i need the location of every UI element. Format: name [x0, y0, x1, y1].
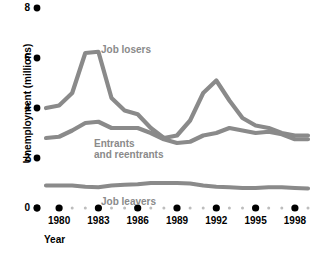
- x-tick-label: 1989: [157, 215, 197, 226]
- x-tick-dot-minor: [71, 207, 74, 210]
- series-lines: [46, 52, 308, 189]
- x-tick-dot-minor: [267, 207, 270, 210]
- x-tick-label: 1998: [275, 215, 315, 226]
- series-line: [46, 183, 308, 189]
- origin-dot: [34, 205, 41, 212]
- x-tick-dot-minor: [189, 207, 192, 210]
- x-tick-dot-minor: [84, 207, 87, 210]
- series-label-entrants-line2: and reentrants: [94, 149, 163, 160]
- x-tick-label: 1995: [236, 215, 276, 226]
- x-tick-label: 1980: [39, 215, 79, 226]
- y-axis-title: Unemployment (millions): [22, 29, 33, 179]
- y-tick-label: 0: [16, 202, 30, 213]
- y-tick-dot: [34, 55, 41, 62]
- series-label-job-leavers: Job leavers: [101, 196, 156, 207]
- x-tick-label: 1986: [118, 215, 158, 226]
- x-tick-label: 1983: [78, 215, 118, 226]
- x-tick-dot-major: [213, 204, 220, 211]
- y-tick-dot: [34, 5, 41, 12]
- x-tick-dot-major: [173, 204, 180, 211]
- series-label-job-losers: Job losers: [101, 44, 151, 55]
- x-tick-dot-minor: [202, 207, 205, 210]
- y-axis-tick-dots: [34, 5, 41, 212]
- series-label-entrants-line1: Entrants: [94, 138, 163, 149]
- x-tick-dot-minor: [280, 207, 283, 210]
- x-axis-title: Year: [44, 234, 65, 245]
- y-tick-dot: [34, 155, 41, 162]
- y-tick-dot: [34, 105, 41, 112]
- x-axis-tick-dots: [34, 204, 310, 211]
- x-tick-dot-minor: [241, 207, 244, 210]
- x-tick-label: 1992: [196, 215, 236, 226]
- x-tick-dot-major: [291, 204, 298, 211]
- series-label-entrants: Entrants and reentrants: [94, 138, 163, 160]
- x-tick-dot-minor: [307, 207, 310, 210]
- x-tick-dot-minor: [228, 207, 231, 210]
- x-tick-dot-major: [56, 204, 63, 211]
- x-tick-dot-major: [252, 204, 259, 211]
- chart-container: 02468 1980198319861989199219951998 Unemp…: [0, 0, 316, 256]
- x-tick-dot-minor: [162, 207, 165, 210]
- y-tick-label: 8: [16, 2, 30, 13]
